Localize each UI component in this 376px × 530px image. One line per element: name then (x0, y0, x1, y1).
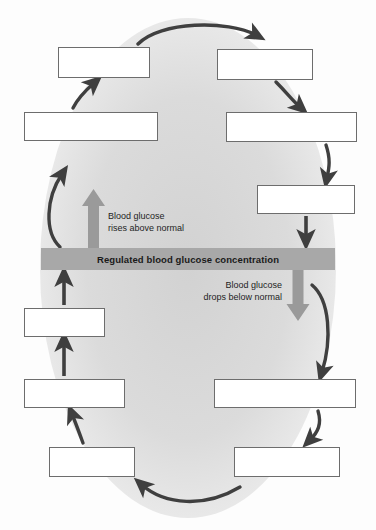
box-top-left[interactable] (58, 47, 150, 78)
arrow-right-upper-to-right-mid (326, 145, 329, 178)
center-bar-regulated-concentration: Regulated blood glucose concentration (41, 248, 335, 270)
arrow-right-lower-to-right-bottom (310, 411, 320, 440)
drop-label-line-1: Blood glucose (180, 280, 282, 292)
drop-label-line-2: drops below normal (180, 292, 282, 304)
box-right-mid[interactable] (257, 185, 355, 214)
box-right-lower[interactable] (214, 379, 356, 408)
rise-label-line-1: Blood glucose (108, 211, 184, 223)
box-right-upper[interactable] (226, 112, 357, 142)
box-top-right[interactable] (217, 49, 313, 80)
drop-label: Blood glucose drops below normal (180, 280, 282, 303)
box-left-lower-first[interactable] (24, 308, 105, 337)
glucose-regulation-diagram: Regulated blood glucose concentration Bl… (0, 0, 376, 530)
box-left-lower-second[interactable] (24, 379, 125, 408)
box-right-bottom[interactable] (234, 447, 340, 477)
rise-label-line-2: rises above normal (108, 223, 184, 235)
rise-label: Blood glucose rises above normal (108, 211, 184, 234)
box-left-upper[interactable] (24, 112, 158, 141)
center-bar-label: Regulated blood glucose concentration (97, 254, 279, 265)
box-left-bottom[interactable] (49, 447, 135, 477)
